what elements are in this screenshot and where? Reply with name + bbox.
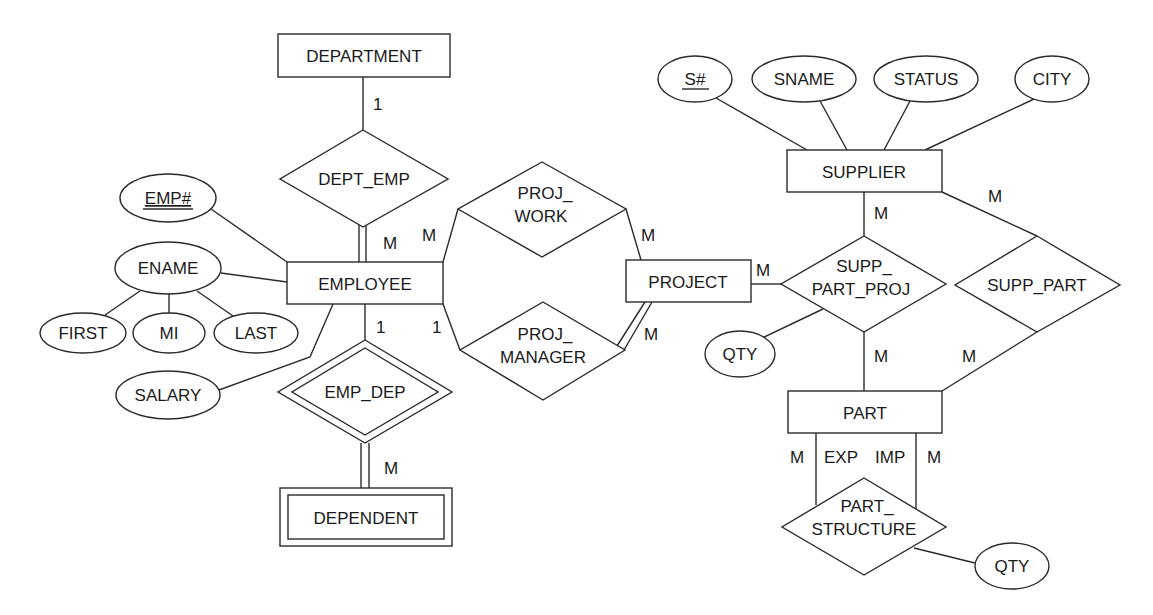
cardinality-label: M	[874, 347, 888, 366]
entity-dependent-label: DEPENDENT	[314, 509, 419, 528]
entity-supplier[interactable]: SUPPLIER	[787, 150, 942, 192]
entity-employee-label: EMPLOYEE	[318, 275, 412, 294]
relationship-emp-dep[interactable]: EMP_DEP	[278, 340, 452, 443]
cardinality-label: M	[790, 448, 804, 467]
attribute-salary[interactable]: SALARY	[116, 371, 220, 419]
relationship-proj-work[interactable]: PROJ_ WORK	[458, 162, 626, 257]
attribute-ename-label: ENAME	[138, 259, 198, 278]
relationship-proj-work-line1: PROJ_	[518, 184, 573, 203]
cardinality-label: M	[384, 459, 398, 478]
attribute-qty-supp-part-proj[interactable]: QTY	[705, 331, 775, 377]
attribute-last[interactable]: LAST	[214, 313, 298, 353]
relationship-part-structure-line2: STRUCTURE	[812, 520, 917, 539]
entity-department-label: DEPARTMENT	[306, 47, 422, 66]
attribute-qty-label: QTY	[995, 557, 1030, 576]
cardinality-label: M	[641, 226, 655, 245]
cardinality-label: M	[383, 234, 397, 253]
attribute-mi-label: MI	[160, 324, 179, 343]
attribute-s-no-label: S#	[685, 70, 706, 89]
relationship-emp-dep-label: EMP_DEP	[324, 383, 405, 402]
attribute-mi[interactable]: MI	[133, 313, 205, 353]
entity-project-label: PROJECT	[648, 273, 727, 292]
role-label: IMP	[875, 448, 905, 467]
attribute-s-no[interactable]: S#	[658, 56, 732, 102]
cardinality-label: M	[962, 347, 976, 366]
attribute-first-label: FIRST	[58, 324, 107, 343]
attribute-city-label: CITY	[1033, 70, 1072, 89]
cardinality-label: M	[874, 204, 888, 223]
attribute-sname[interactable]: SNAME	[752, 56, 856, 102]
attribute-qty-label: QTY	[723, 345, 758, 364]
attribute-first[interactable]: FIRST	[40, 313, 126, 353]
entity-part-label: PART	[843, 404, 887, 423]
entity-dependent[interactable]: DEPENDENT	[280, 488, 452, 546]
role-label: EXP	[824, 448, 858, 467]
cardinality-label: M	[988, 187, 1002, 206]
attribute-qty-part-structure[interactable]: QTY	[975, 543, 1049, 589]
relationship-supp-part-proj-line1: SUPP_	[836, 257, 892, 276]
cardinality-label: 1	[432, 318, 441, 337]
entity-supplier-label: SUPPLIER	[822, 163, 906, 182]
attribute-status[interactable]: STATUS	[874, 56, 978, 102]
relationship-supp-part-proj-line2: PART_PROJ	[812, 280, 911, 299]
relationship-dept-emp-label: DEPT_EMP	[318, 170, 410, 189]
attribute-status-label: STATUS	[894, 70, 959, 89]
attribute-emp-no[interactable]: EMP#	[120, 174, 216, 222]
relationship-dept-emp[interactable]: DEPT_EMP	[280, 130, 448, 227]
relationship-proj-work-line2: WORK	[515, 207, 569, 226]
entity-part[interactable]: PART	[788, 391, 942, 433]
entity-project[interactable]: PROJECT	[626, 260, 751, 302]
entity-employee[interactable]: EMPLOYEE	[287, 262, 443, 304]
cardinality-label: M	[756, 261, 770, 280]
cardinality-label: M	[927, 448, 941, 467]
attribute-emp-no-label: EMP#	[145, 189, 192, 208]
attribute-ename[interactable]: ENAME	[115, 242, 221, 294]
attribute-last-label: LAST	[235, 324, 278, 343]
relationship-proj-manager-line2: MANAGER	[500, 348, 586, 367]
entity-department[interactable]: DEPARTMENT	[278, 34, 450, 77]
relationship-proj-manager-line1: PROJ_	[518, 325, 573, 344]
cardinality-label: 1	[376, 318, 385, 337]
relationship-part-structure[interactable]: PART_ STRUCTURE	[782, 478, 946, 575]
attribute-city[interactable]: CITY	[1015, 56, 1089, 102]
cardinality-label: M	[644, 325, 658, 344]
relationship-proj-manager[interactable]: PROJ_ MANAGER	[460, 302, 625, 400]
relationship-supp-part-label: SUPP_PART	[987, 276, 1087, 295]
relationship-part-structure-line1: PART_	[840, 497, 894, 516]
cardinality-label: M	[422, 226, 436, 245]
cardinality-label: 1	[373, 95, 382, 114]
er-diagram: DEPARTMENT EMPLOYEE DEPENDENT PROJECT SU…	[0, 0, 1153, 615]
attribute-sname-label: SNAME	[774, 70, 834, 89]
relationship-supp-part[interactable]: SUPP_PART	[955, 236, 1120, 332]
attribute-salary-label: SALARY	[135, 386, 202, 405]
